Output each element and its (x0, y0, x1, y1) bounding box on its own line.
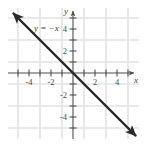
y-tick-label-neg2: -2 (60, 90, 67, 100)
graph-canvas: -4 -2 2 4 4 2 -2 -4 x y y = −x (0, 0, 148, 146)
x-axis-letter-label: x (133, 75, 138, 85)
x-tick-label-pos2: 2 (93, 77, 97, 87)
y-axis-letter-label: y (63, 6, 68, 16)
coordinate-graph-figure: -4 -2 2 4 4 2 -2 -4 x y y = −x (0, 0, 148, 146)
equation-label: y = −x (33, 23, 59, 33)
x-tick-label-neg4: -4 (25, 77, 33, 87)
x-tick-label-neg2: -2 (47, 77, 54, 87)
y-tick-label-pos2: 2 (63, 46, 67, 56)
y-tick-label-neg4: -4 (60, 112, 68, 122)
